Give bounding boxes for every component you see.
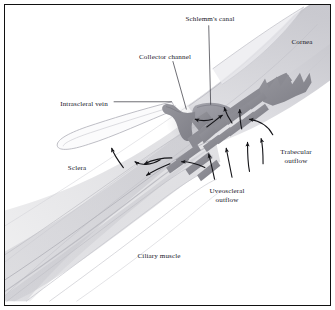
figure-container: Schlemm's canal Cornea Collector channel…	[0, 0, 335, 310]
label-uveoscleral-outflow: Uveoscleral outflow	[210, 187, 245, 204]
label-collector-channel: Collector channel	[139, 53, 191, 61]
label-trabecular-outflow: Trabecular outflow	[280, 148, 311, 165]
label-trabecular-outflow-line2: outflow	[280, 157, 311, 166]
label-ciliary-muscle: Ciliary muscle	[138, 252, 181, 260]
label-uveoscleral-outflow-line1: Uveoscleral	[210, 187, 245, 196]
label-uveoscleral-outflow-line2: outflow	[210, 196, 245, 205]
figure-frame: Schlemm's canal Cornea Collector channel…	[4, 4, 331, 306]
label-trabecular-outflow-line1: Trabecular	[280, 148, 311, 157]
label-cornea: Cornea	[291, 38, 312, 46]
label-intrascleral-vein: Intrascleral vein	[60, 100, 108, 108]
label-sclera: Sclera	[68, 164, 86, 172]
label-schlemms-canal: Schlemm's canal	[185, 15, 234, 23]
